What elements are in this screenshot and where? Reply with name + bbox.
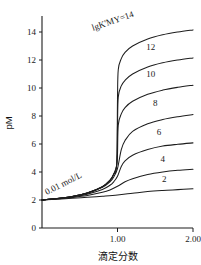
y-tick-label: 0 — [32, 223, 37, 233]
curve-label-lgK-4: 4 — [161, 154, 166, 164]
curve-label-lgK-2: 2 — [162, 174, 167, 184]
y-tick-label: 6 — [32, 139, 37, 149]
curve-lgK-2 — [42, 189, 193, 200]
y-tick-label: 12 — [27, 55, 36, 65]
x-tick-label: 1.00 — [110, 234, 126, 244]
chart-container: 024681012141.002.00 121086420.01 mol/Llg… — [0, 0, 201, 265]
curve-label-lgK-12: 12 — [146, 42, 155, 52]
y-axis-title: pM — [3, 116, 14, 129]
y-tick-label: 8 — [32, 111, 37, 121]
x-axis-title: 滴定分数 — [98, 250, 138, 262]
annotation-concentration: 0.01 mol/L — [43, 170, 83, 197]
curve-label-lgK-10: 10 — [146, 69, 156, 79]
curve-label-lgK-8: 8 — [153, 98, 158, 108]
y-tick-label: 4 — [32, 167, 37, 177]
axes-layer: 024681012141.002.00 — [27, 16, 201, 244]
annotation-top-curve-label: lgK'MY=14 — [90, 9, 135, 33]
x-tick-label: 2.00 — [185, 234, 201, 244]
y-tick-label: 2 — [32, 195, 37, 205]
titration-curve-chart: 024681012141.002.00 121086420.01 mol/Llg… — [0, 0, 201, 265]
y-tick-label: 14 — [27, 27, 37, 37]
curves-layer — [42, 30, 193, 200]
y-tick-label: 10 — [27, 83, 37, 93]
curve-label-lgK-6: 6 — [157, 127, 162, 137]
labels-layer: 121086420.01 mol/LlgK'MY=14pM滴定分数 — [3, 9, 167, 262]
